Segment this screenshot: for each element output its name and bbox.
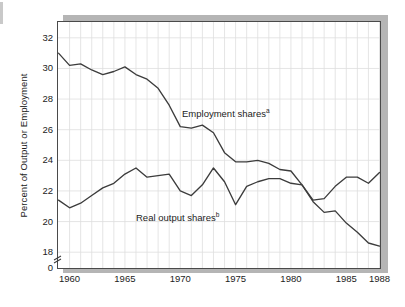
- real-output-shares-label: Real output sharesb: [136, 212, 219, 223]
- x-tick-1985: 1985: [336, 273, 357, 284]
- y-tick-26: 26: [31, 125, 53, 135]
- y-tick-32: 32: [31, 33, 53, 43]
- scan-edge-artifact: [0, 2, 3, 24]
- x-tick-1970: 1970: [170, 273, 191, 284]
- x-tick-labels: 1960196519701975198019851988: [0, 273, 405, 293]
- y-tick-22: 22: [31, 186, 53, 196]
- y-tick-18: 18: [31, 247, 53, 257]
- plot-area: [57, 21, 381, 269]
- series-line-1: [59, 168, 380, 208]
- y-tick-24: 24: [31, 155, 53, 165]
- y-tick-20: 20: [31, 217, 53, 227]
- x-tick-1975: 1975: [225, 273, 246, 284]
- employment-shares-label: Employment sharesa: [182, 108, 270, 119]
- x-tick-1965: 1965: [114, 273, 135, 284]
- y-tick-30: 30: [31, 63, 53, 73]
- y-tick-labels: 32302826242220180: [28, 0, 53, 307]
- y-tick-28: 28: [31, 94, 53, 104]
- figure-container: Percent of Output or Employment 32302826…: [0, 0, 405, 307]
- chart-canvas: [58, 22, 380, 268]
- y-tick-0: 0: [31, 263, 53, 273]
- x-tick-1960: 1960: [59, 273, 80, 284]
- x-tick-1988: 1988: [369, 273, 390, 284]
- axis-break-icon: [53, 252, 62, 264]
- x-tick-1980: 1980: [280, 273, 301, 284]
- y-axis-label: Percent of Output or Employment: [18, 46, 29, 246]
